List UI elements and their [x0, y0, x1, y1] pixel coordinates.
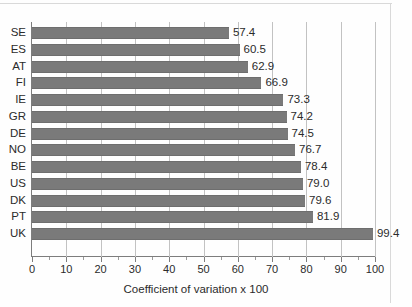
- x-tick-label-30: 30: [129, 263, 141, 275]
- bar-gr[interactable]: [32, 111, 287, 123]
- value-label-uk: 99.4: [377, 227, 399, 239]
- value-label-us: 79.0: [307, 177, 329, 189]
- category-label-us: US: [0, 177, 26, 189]
- bar-be[interactable]: [32, 161, 301, 173]
- bar-us[interactable]: [32, 178, 303, 190]
- x-tick-70: [272, 257, 273, 262]
- bar-ie[interactable]: [32, 94, 283, 106]
- frame-right-border: [390, 3, 391, 303]
- value-label-at: 62.9: [252, 60, 274, 72]
- value-label-dk: 79.6: [309, 194, 331, 206]
- gridline-100: [375, 22, 376, 257]
- category-label-at: AT: [0, 60, 26, 72]
- x-tick-label-60: 60: [232, 263, 244, 275]
- bar-dk[interactable]: [32, 195, 305, 207]
- x-minor-tick-45: [186, 257, 187, 260]
- x-tick-30: [135, 257, 136, 262]
- x-tick-label-100: 100: [366, 263, 384, 275]
- category-label-se: SE: [0, 26, 26, 38]
- bar-uk[interactable]: [32, 228, 373, 240]
- value-label-be: 78.4: [305, 160, 327, 172]
- x-tick-label-20: 20: [94, 263, 106, 275]
- category-label-de: DE: [0, 127, 26, 139]
- bar-fi[interactable]: [32, 77, 261, 89]
- value-label-ie: 73.3: [287, 93, 309, 105]
- x-tick-label-90: 90: [335, 263, 347, 275]
- category-label-gr: GR: [0, 110, 26, 122]
- category-label-dk: DK: [0, 194, 26, 206]
- x-tick-label-50: 50: [197, 263, 209, 275]
- x-tick-60: [238, 257, 239, 262]
- x-tick-80: [306, 257, 307, 262]
- x-tick-label-40: 40: [163, 263, 175, 275]
- category-label-ie: IE: [0, 93, 26, 105]
- value-label-gr: 74.2: [291, 110, 313, 122]
- bar-de[interactable]: [32, 128, 288, 140]
- bar-at[interactable]: [32, 61, 248, 73]
- x-minor-tick-15: [83, 257, 84, 260]
- category-label-uk: UK: [0, 227, 26, 239]
- bar-chart: 0102030405060708090100 SEESATFIIEGRDENOB…: [0, 0, 412, 307]
- gridline-90: [341, 22, 342, 257]
- value-label-se: 57.4: [233, 26, 255, 38]
- category-label-fi: FI: [0, 76, 26, 88]
- value-label-de: 74.5: [292, 127, 314, 139]
- value-label-es: 60.5: [244, 43, 266, 55]
- x-tick-10: [66, 257, 67, 262]
- bar-pt[interactable]: [32, 211, 313, 223]
- x-tick-label-80: 80: [300, 263, 312, 275]
- x-minor-tick-65: [255, 257, 256, 260]
- x-tick-90: [341, 257, 342, 262]
- x-tick-0: [32, 257, 33, 262]
- x-minor-tick-75: [289, 257, 290, 260]
- x-tick-40: [169, 257, 170, 262]
- x-minor-tick-35: [152, 257, 153, 260]
- x-tick-50: [204, 257, 205, 262]
- x-tick-100: [375, 257, 376, 262]
- bar-no[interactable]: [32, 144, 295, 156]
- value-label-no: 76.7: [299, 143, 321, 155]
- value-label-fi: 66.9: [265, 76, 287, 88]
- value-label-pt: 81.9: [317, 210, 339, 222]
- x-minor-tick-95: [358, 257, 359, 260]
- x-tick-label-0: 0: [29, 263, 35, 275]
- category-label-be: BE: [0, 160, 26, 172]
- x-axis-title: Coefficient of variation x 100: [0, 283, 392, 295]
- x-minor-tick-25: [118, 257, 119, 260]
- x-minor-tick-85: [324, 257, 325, 260]
- x-minor-tick-55: [221, 257, 222, 260]
- category-label-es: ES: [0, 43, 26, 55]
- x-minor-tick-5: [49, 257, 50, 260]
- bar-es[interactable]: [32, 44, 240, 56]
- x-tick-20: [101, 257, 102, 262]
- x-tick-label-70: 70: [266, 263, 278, 275]
- bar-se[interactable]: [32, 27, 229, 39]
- frame-top-border: [0, 3, 392, 4]
- category-label-no: NO: [0, 143, 26, 155]
- x-tick-label-10: 10: [60, 263, 72, 275]
- category-label-pt: PT: [0, 210, 26, 222]
